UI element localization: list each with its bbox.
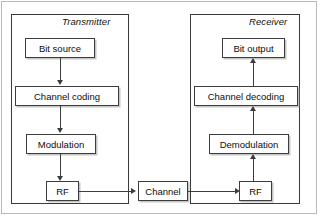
- block-tx-rf[interactable]: RF: [46, 181, 79, 201]
- diagram-canvas: Transmitter Bit source Channel coding Mo…: [0, 0, 320, 218]
- block-modulation[interactable]: Modulation: [26, 134, 96, 154]
- block-rx-rf[interactable]: RF: [239, 181, 272, 201]
- block-bit-source[interactable]: Bit source: [25, 38, 95, 58]
- connector-tx-rf-to-channel: [79, 191, 133, 192]
- connector-channel-decoding-to-bit-output: [253, 63, 254, 86]
- block-bit-output[interactable]: Bit output: [222, 38, 285, 58]
- block-channel[interactable]: Channel: [138, 181, 188, 201]
- arrowhead-up-bit-output: [250, 58, 256, 63]
- arrowhead-up-demodulation: [250, 154, 256, 159]
- arrowhead-right-channel: [131, 188, 136, 194]
- connector-demodulation-to-channel-decoding: [253, 111, 254, 134]
- receiver-group-label: Receiver: [249, 16, 287, 27]
- arrowhead-down-channel-coding: [57, 80, 63, 85]
- connector-bit-source-to-channel-coding: [60, 58, 61, 82]
- connector-channel-coding-to-modulation: [60, 106, 61, 130]
- arrowhead-down-modulation: [57, 128, 63, 133]
- arrowhead-up-channel-decoding: [250, 106, 256, 111]
- block-channel-decoding[interactable]: Channel decoding: [194, 86, 298, 106]
- block-demodulation[interactable]: Demodulation: [209, 134, 289, 154]
- transmitter-group-label: Transmitter: [62, 16, 110, 27]
- block-channel-coding[interactable]: Channel coding: [15, 86, 119, 106]
- connector-rx-rf-to-demodulation: [253, 159, 254, 181]
